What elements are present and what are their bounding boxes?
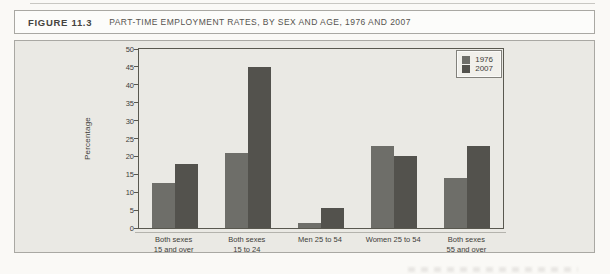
y-tick-label-40: 40 [126, 80, 134, 89]
figure-title-bar: FIGURE 11.3 PART-TIME EMPLOYMENT RATES, … [14, 10, 595, 34]
y-tick-label-50: 50 [126, 45, 134, 54]
x-axis-baseline [135, 232, 506, 233]
y-tick-label-15: 15 [126, 170, 134, 179]
legend-label-1976: 1976 [475, 55, 493, 64]
y-tick-mark-0 [134, 228, 138, 229]
y-tick-mark-50 [134, 49, 138, 50]
legend-swatch-2007 [462, 65, 470, 73]
legend-rows: 19762007 [462, 55, 493, 73]
bar-2007-category-1 [175, 164, 198, 228]
y-tick-label-25: 25 [126, 134, 134, 143]
y-tick-mark-15 [134, 174, 138, 175]
bar-group-4 [357, 49, 430, 228]
x-category-label-3: Men 25 to 54 [283, 235, 356, 254]
y-tick-mark-5 [134, 210, 138, 211]
page-top-rule [30, 3, 595, 4]
bar-2007-category-5 [467, 146, 490, 228]
legend-label-2007: 2007 [475, 64, 493, 73]
y-tick-label-35: 35 [126, 98, 134, 107]
y-tick-mark-10 [134, 192, 138, 193]
legend-swatch-1976 [462, 56, 470, 64]
bar-1976-category-3 [298, 223, 321, 228]
bar-2007-category-3 [321, 208, 344, 228]
bar-1976-category-4 [371, 146, 394, 228]
bar-2007-category-4 [394, 156, 417, 228]
plot-area: 05101520253035404550 19762007 [138, 48, 504, 229]
bar-group-1 [139, 49, 212, 228]
chart-panel: Percentage 05101520253035404550 19762007… [14, 40, 595, 253]
scan-bleed-artifact [408, 267, 578, 272]
y-tick-label-20: 20 [126, 152, 134, 161]
y-tick-label-10: 10 [126, 188, 134, 197]
x-axis-labels: Both sexes 15 and overBoth sexes 15 to 2… [137, 235, 503, 254]
x-category-label-4: Women 25 to 54 [357, 235, 430, 254]
figure-title: PART-TIME EMPLOYMENT RATES, BY SEX AND A… [109, 17, 411, 27]
bar-group-2 [212, 49, 285, 228]
y-axis-title: Percentage [79, 48, 95, 229]
y-tick-mark-25 [134, 138, 138, 139]
bar-1976-category-5 [444, 178, 467, 228]
bar-1976-category-1 [152, 183, 175, 228]
y-tick-mark-30 [134, 120, 138, 121]
x-category-label-5: Both sexes 55 and over [430, 235, 503, 254]
legend: 19762007 [456, 50, 502, 78]
legend-row-1976: 1976 [462, 55, 493, 64]
y-tick-label-45: 45 [126, 62, 134, 71]
x-category-label-1: Both sexes 15 and over [137, 235, 210, 254]
y-tick-label-30: 30 [126, 116, 134, 125]
bar-group-3 [285, 49, 358, 228]
y-tick-mark-40 [134, 84, 138, 85]
legend-row-2007: 2007 [462, 64, 493, 73]
x-category-label-2: Both sexes 15 to 24 [210, 235, 283, 254]
figure-number: FIGURE 11.3 [28, 17, 92, 28]
bar-2007-category-2 [248, 67, 271, 228]
y-tick-mark-20 [134, 156, 138, 157]
y-tick-mark-45 [134, 66, 138, 67]
bar-1976-category-2 [225, 153, 248, 228]
y-tick-mark-35 [134, 102, 138, 103]
bar-series-area [139, 49, 503, 228]
